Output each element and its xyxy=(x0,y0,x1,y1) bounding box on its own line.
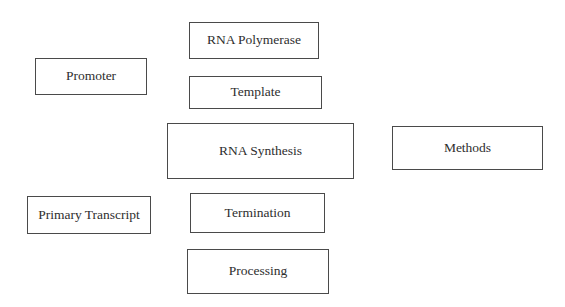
diagram-canvas: RNA Polymerase Template Promoter RNA Syn… xyxy=(0,0,565,307)
node-rna-polymerase: RNA Polymerase xyxy=(189,22,319,59)
node-primary-transcript: Primary Transcript xyxy=(27,196,151,234)
node-processing: Processing xyxy=(187,249,329,294)
node-label: Methods xyxy=(444,141,491,155)
node-label: Termination xyxy=(225,206,291,220)
node-promoter: Promoter xyxy=(35,58,147,95)
node-label: RNA Synthesis xyxy=(219,144,302,158)
node-label: Primary Transcript xyxy=(38,208,140,222)
node-label: Promoter xyxy=(66,69,116,83)
node-label: RNA Polymerase xyxy=(207,33,301,47)
node-label: Processing xyxy=(229,264,288,278)
node-template: Template xyxy=(189,76,322,109)
node-methods: Methods xyxy=(392,126,543,170)
node-rna-synthesis: RNA Synthesis xyxy=(167,123,354,179)
node-label: Template xyxy=(230,85,280,99)
node-termination: Termination xyxy=(190,193,325,233)
